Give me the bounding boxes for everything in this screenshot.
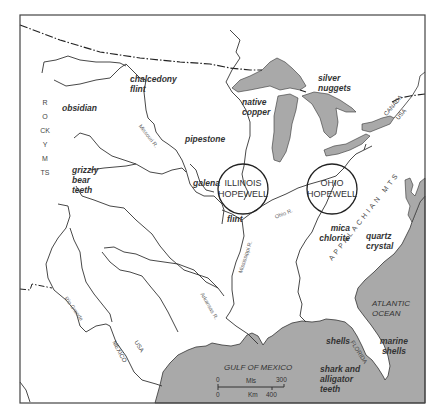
- resource-line: teeth: [320, 384, 360, 394]
- ocean-line: ATLANTIC: [372, 299, 410, 309]
- ocean-label-atlantic: ATLANTIC OCEAN: [372, 299, 410, 319]
- site-name-line1: ILLINOIS: [218, 178, 268, 189]
- resource-flint: flint: [227, 214, 243, 224]
- mountain-label-rocky: ROCKY MTS: [40, 96, 50, 180]
- resource-line: bear: [72, 175, 98, 185]
- resource-line: alligator: [320, 374, 360, 384]
- scale-mls-zero: 0: [216, 376, 220, 383]
- resource-line: shells: [380, 346, 406, 356]
- scale-mls-label: Mls: [246, 377, 256, 384]
- scale-km-label: Km: [248, 391, 258, 398]
- site-name-line2: HOPEWELL: [218, 189, 268, 200]
- resource-galena: galena: [193, 178, 220, 188]
- resource-chalcedony-flint: chalcedony flint: [130, 74, 177, 94]
- scale-km-zero: 0: [216, 391, 220, 398]
- ohio-hopewell-label: OHIO HOPEWELL: [307, 178, 357, 200]
- resource-line: marine: [380, 336, 406, 346]
- site-name-line2: HOPEWELL: [307, 189, 357, 200]
- resource-line: crystal: [366, 241, 393, 251]
- resource-silver-nuggets: silver nuggets: [318, 73, 351, 93]
- resource-shells: shells: [326, 336, 350, 346]
- resource-line: chalcedony: [130, 74, 177, 84]
- resource-line: nuggets: [318, 83, 351, 93]
- resource-obsidian: obsidian: [62, 103, 97, 113]
- illinois-hopewell-label: ILLINOIS HOPEWELL: [218, 178, 268, 200]
- site-name-line1: OHIO: [307, 178, 357, 189]
- resource-quartz-crystal: quartz crystal: [366, 231, 393, 251]
- resource-line: copper: [242, 107, 270, 117]
- resource-line: grizzly: [72, 165, 98, 175]
- resource-line: flint: [130, 84, 177, 94]
- resource-line: mica: [318, 223, 350, 233]
- resource-line: shark and: [320, 364, 360, 374]
- ocean-label-gulf: GULF OF MEXICO: [224, 363, 292, 373]
- resource-line: native: [242, 97, 270, 107]
- resource-line: quartz: [366, 231, 393, 241]
- scale-km-max: 400: [266, 391, 277, 398]
- resource-pipestone: pipestone: [185, 134, 225, 144]
- resource-line: teeth: [72, 185, 98, 195]
- ocean-line: OCEAN: [372, 309, 410, 319]
- resource-marine-shells: marine shells: [380, 336, 406, 356]
- resource-grizzly-bear-teeth: grizzly bear teeth: [72, 165, 98, 195]
- resource-shark-alligator-teeth: shark and alligator teeth: [320, 364, 360, 394]
- scale-mls-max: 300: [276, 376, 287, 383]
- resource-line: silver: [318, 73, 351, 83]
- resource-native-copper: native copper: [242, 97, 270, 117]
